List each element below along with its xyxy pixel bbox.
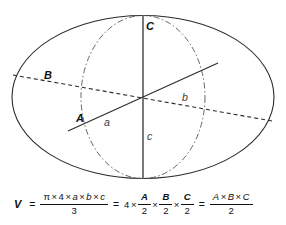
var-b: b (86, 191, 91, 202)
formula-equals-1: = (29, 198, 35, 210)
formula-term-1-numerator: π×4×a×b×c (40, 192, 107, 203)
times-symbol: × (219, 191, 228, 202)
fraction-b-over-2: B 2 (159, 192, 172, 216)
times-symbol: × (172, 199, 181, 210)
fraction-a-over-2: A 2 (138, 192, 151, 216)
fraction-b-numerator: B (159, 192, 172, 203)
times-symbol: × (234, 191, 243, 202)
formula-term-3: A×B×C 2 (210, 192, 253, 216)
formula-term-1: π×4×a×b×c 3 (40, 192, 107, 216)
times-symbol: × (50, 191, 59, 202)
ellipsoid-figure: C B A a b c V = π×4×a×b×c 3 = 4 × A 2 × … (0, 0, 286, 225)
formula-term-3-denominator: 2 (226, 205, 237, 216)
fraction-a-denominator: 2 (139, 205, 150, 216)
formula-term-3-numerator: A×B×C (210, 192, 253, 203)
fraction-c-numerator: C (181, 192, 194, 203)
fraction-c-denominator: 2 (182, 205, 193, 216)
times-symbol: × (151, 199, 160, 210)
formula-equals-3: = (199, 198, 205, 210)
formula-term-2: 4 × A 2 × B 2 × C 2 (124, 192, 194, 216)
volume-formula: V = π×4×a×b×c 3 = 4 × A 2 × B 2 × C (14, 186, 286, 222)
fraction-b-denominator: 2 (160, 205, 171, 216)
var-c: c (100, 191, 105, 202)
ellipsoid-drawing (0, 0, 286, 186)
formula-equals-2: = (113, 198, 119, 210)
formula-term-1-denominator: 3 (69, 205, 80, 216)
times-symbol: × (92, 191, 101, 202)
fraction-c-over-2: C 2 (181, 192, 194, 216)
times-symbol: × (129, 199, 138, 210)
formula-variable-v: V (14, 198, 21, 210)
fraction-a-numerator: A (138, 192, 151, 203)
var-C: C (243, 191, 250, 202)
var-a: a (72, 191, 77, 202)
